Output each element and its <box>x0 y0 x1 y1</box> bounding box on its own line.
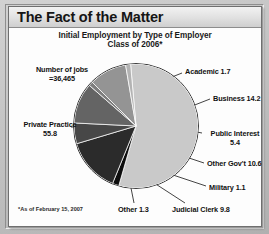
slice-label-public-interest: Public Interest 5.4 <box>205 129 265 147</box>
private-practice-name: Private Practice <box>23 120 76 129</box>
chart-panel: The Fact of the Matter Initial Employmen… <box>8 6 262 227</box>
title-bar: The Fact of the Matter <box>9 7 261 28</box>
public-interest-value: 5.4 <box>230 138 240 147</box>
chart-subtitle-line2: Class of 2006* <box>9 40 261 49</box>
slice-label-other: Other 1.3 <box>118 205 149 214</box>
public-interest-name: Public Interest <box>211 129 260 138</box>
image-frame: The Fact of the Matter Initial Employmen… <box>0 0 269 234</box>
footnote: *As of February 15, 2007 <box>18 206 83 212</box>
private-practice-value: 55.8 <box>43 129 57 138</box>
slice-label-academic: Academic 1.7 <box>185 67 230 76</box>
chart-subtitle-line1: Initial Employment by Type of Employer <box>9 31 261 40</box>
slice-label-private-practice: Private Practice 55.8 <box>11 120 89 138</box>
slice-label-military: Military 1.1 <box>209 183 246 192</box>
slice-label-other-government: Other Gov't 10.6 <box>207 159 261 168</box>
slice-label-judicial-clerk: Judicial Clerk 9.8 <box>172 205 230 214</box>
jobs-line2: =36,465 <box>49 74 75 83</box>
annotation-number-of-jobs: Number of jobs =36,465 <box>19 65 105 83</box>
jobs-line1: Number of jobs <box>36 65 88 74</box>
page-title: The Fact of the Matter <box>17 9 163 25</box>
slice-label-business: Business 14.2 <box>213 94 260 103</box>
